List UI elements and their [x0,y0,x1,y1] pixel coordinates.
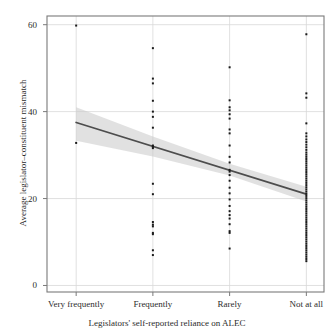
scatter-point [305,146,307,148]
scatter-point [305,260,307,262]
scatter-point [305,188,307,190]
scatter-point [229,218,231,220]
scatter-point [305,92,307,94]
scatter-point [229,128,231,130]
scatter-point [305,241,307,243]
scatter-point [229,174,231,176]
scatter-point [305,158,307,160]
scatter-point [305,154,307,156]
scatter-point [305,193,307,195]
scatter-point [229,205,231,207]
y-axis-title: Average legislator–constituent mismatch [18,58,28,248]
scatter-point [229,230,231,232]
scatter-point [305,97,307,99]
scatter-point [152,233,154,235]
x-axis-title: Legislators' self-reported reliance on A… [0,318,334,328]
scatter-point [305,225,307,227]
scatter-point [305,228,307,230]
scatter-point [305,160,307,162]
scatter-point [305,236,307,238]
scatter-point [229,223,231,225]
y-tick-label: 60 [11,20,37,30]
scatter-point [305,173,307,175]
scatter-point [305,138,307,140]
scatter-point [305,180,307,182]
scatter-point [305,151,307,153]
scatter-point [152,111,154,113]
scatter-point [229,210,231,212]
scatter-point [229,214,231,216]
scatter-point [305,178,307,180]
scatter-point [152,183,154,185]
scatter-point [152,127,154,129]
scatter-point [305,215,307,217]
scatter-point [305,182,307,184]
scatter-point [152,47,154,49]
scatter-point [229,192,231,194]
scatter-point [75,25,77,27]
scatter-point [152,100,154,102]
x-tick-label: Rarely [218,299,242,309]
scatter-point [305,212,307,214]
scatter-point [305,254,307,256]
scatter-point [229,156,231,158]
scatter-point [229,198,231,200]
scatter-point [305,195,307,197]
scatter-point [305,141,307,143]
scatter-point [229,118,231,120]
scatter-point [229,169,231,171]
plot-canvas [0,0,334,336]
scatter-point [305,258,307,260]
scatter-point [229,248,231,250]
scatter-point [305,135,307,137]
scatter-point [305,245,307,247]
scatter-point [152,116,154,118]
scatter-point [305,162,307,164]
scatter-point [305,238,307,240]
scatter-point [305,234,307,236]
scatter-point [229,180,231,182]
scatter-point [305,201,307,203]
scatter-point [305,210,307,212]
figure-scatter-plot: 0204060 Very frequentlyFrequentlyRarelyN… [0,0,334,336]
scatter-point [229,99,231,101]
scatter-point [305,122,307,124]
scatter-point [305,167,307,169]
scatter-point [305,249,307,251]
scatter-point [305,132,307,134]
scatter-point [305,186,307,188]
x-tick-label: Frequently [133,299,172,309]
scatter-point [229,66,231,68]
scatter-point [305,156,307,158]
scatter-point [229,145,231,147]
scatter-point [305,165,307,167]
scatter-point [229,109,231,111]
scatter-point [305,169,307,171]
scatter-point [305,204,307,206]
scatter-point [305,206,307,208]
scatter-point [229,161,231,163]
scatter-point [305,256,307,258]
scatter-point [305,149,307,151]
scatter-point [152,225,154,227]
scatter-point [305,232,307,234]
scatter-point [229,113,231,115]
scatter-point [305,208,307,210]
scatter-point [305,144,307,146]
scatter-point [305,230,307,232]
scatter-point [305,217,307,219]
scatter-point [229,232,231,234]
scatter-point [305,247,307,249]
scatter-point [152,221,154,223]
scatter-point [305,33,307,35]
scatter-point [152,254,154,256]
scatter-point [305,197,307,199]
scatter-point [229,187,231,189]
scatter-point [305,223,307,225]
scatter-point [305,199,307,201]
scatter-point [229,171,231,173]
scatter-point [152,78,154,80]
scatter-point [152,224,154,226]
scatter-point [305,219,307,221]
x-tick-label: Very frequently [48,299,104,309]
